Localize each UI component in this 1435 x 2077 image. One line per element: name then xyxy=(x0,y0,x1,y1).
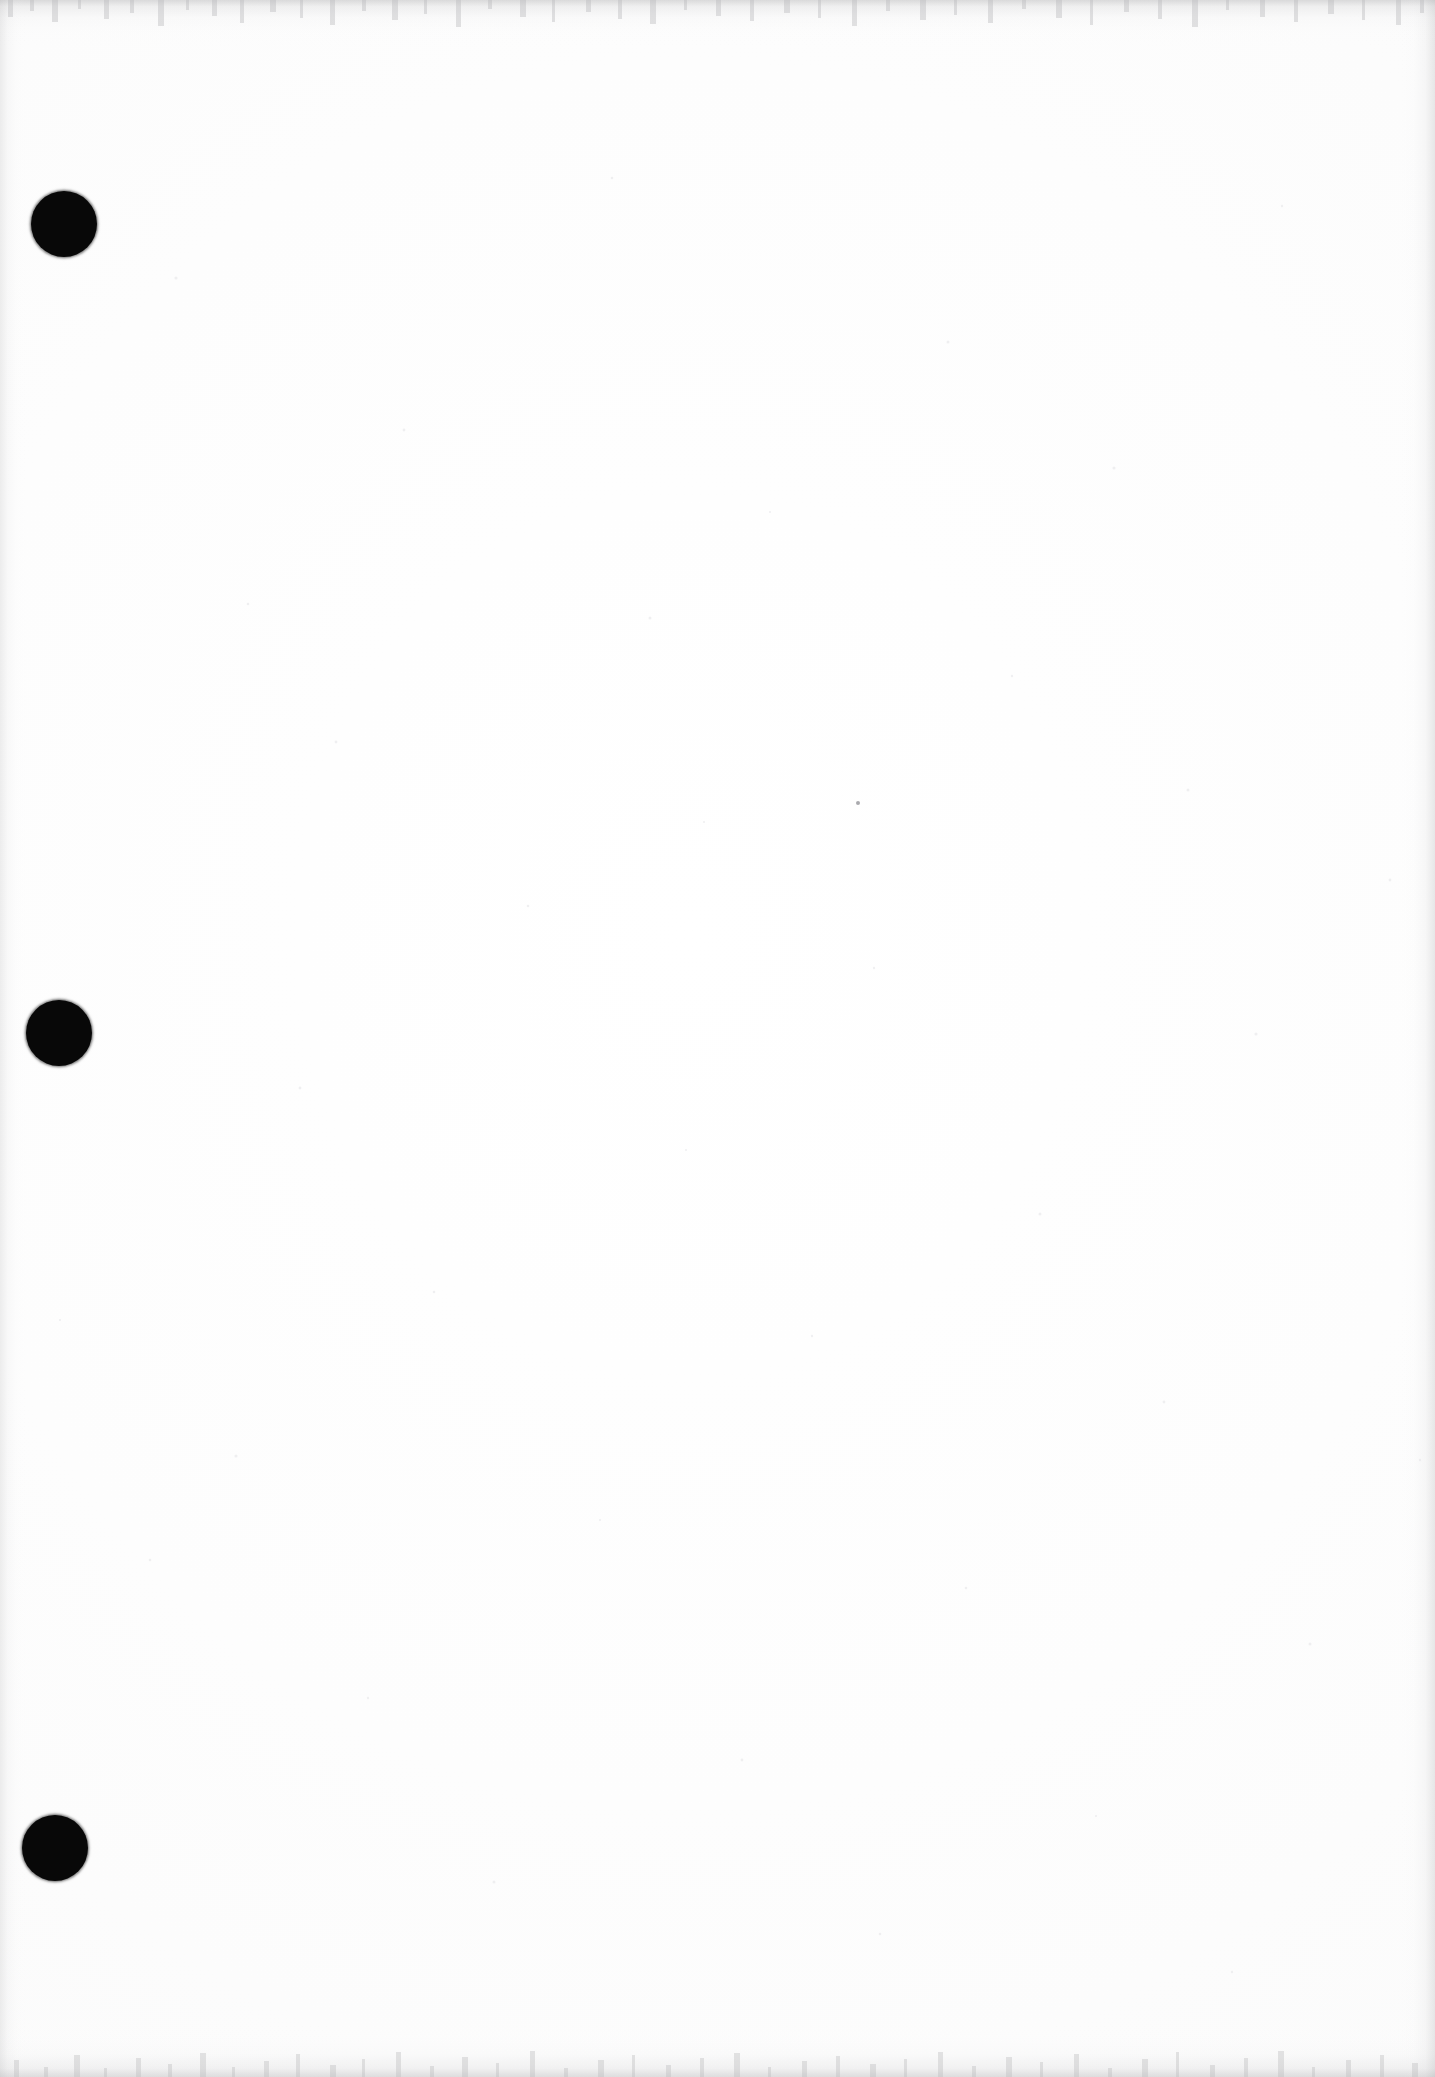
scan-edge-bottom xyxy=(0,2023,1435,2077)
scan-fringe-top-icon xyxy=(0,0,1435,30)
scanned-page xyxy=(0,0,1435,2077)
scan-edge-left xyxy=(0,0,26,2077)
punch-mark-bottom xyxy=(22,1815,88,1881)
scan-edge-top xyxy=(0,0,1435,46)
punch-mark-middle xyxy=(26,1000,92,1066)
scan-fringe-bottom-icon xyxy=(0,2047,1435,2077)
page-body-text xyxy=(150,120,1325,1957)
scan-edge-right xyxy=(1401,0,1435,2077)
punch-mark-top xyxy=(31,191,97,257)
